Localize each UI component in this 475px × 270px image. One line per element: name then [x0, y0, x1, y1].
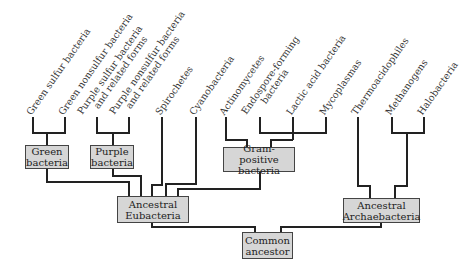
- node-label: Ancestral: [357, 200, 405, 211]
- node-label: Archaebacteria: [343, 211, 421, 222]
- node-green-bacteria: Green bacteria: [25, 145, 69, 169]
- node-label: Eubacteria: [125, 210, 181, 221]
- node-purple-bacteria: Purple bacteria: [90, 145, 134, 169]
- node-label: Common: [245, 235, 290, 246]
- node-ancestral-eubacteria: Ancestral Eubacteria: [117, 196, 189, 223]
- node-gram-positive: Gram-positive bacteria: [223, 147, 295, 172]
- node-common-ancestor: Common ancestor: [242, 232, 293, 259]
- node-label: Gram-positive: [224, 143, 294, 165]
- node-label: Purple: [95, 146, 128, 157]
- node-label: bacteria: [91, 157, 133, 168]
- node-label: bacteria: [26, 157, 68, 168]
- node-label: Green: [31, 146, 62, 157]
- node-label: bacteria: [238, 165, 280, 176]
- node-label: ancestor: [246, 246, 290, 257]
- node-label: Ancestral: [129, 199, 177, 210]
- node-ancestral-archaebacteria: Ancestral Archaebacteria: [343, 198, 420, 223]
